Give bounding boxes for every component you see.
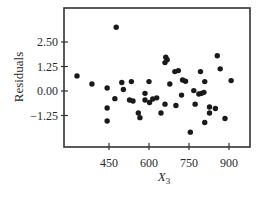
data-point — [104, 105, 109, 110]
data-point — [158, 110, 163, 115]
data-point — [74, 73, 79, 78]
x-axis-label: X3 — [157, 169, 171, 186]
data-point — [104, 118, 109, 123]
y-tick-label: 0.00 — [37, 84, 58, 98]
data-point — [142, 97, 147, 102]
data-point — [222, 116, 227, 121]
data-point — [179, 92, 184, 97]
data-point — [167, 81, 172, 86]
y-tick-label: 1.25 — [37, 60, 58, 74]
plot-frame — [64, 8, 250, 147]
data-point — [164, 57, 169, 62]
x-tick-label: 600 — [140, 156, 158, 170]
x-axis-label-subscript: 3 — [166, 176, 171, 186]
y-axis: 2.501.250.00−1.25 — [30, 35, 68, 123]
data-point — [192, 101, 197, 106]
data-point — [202, 120, 207, 125]
data-point — [130, 98, 135, 103]
data-point — [176, 68, 181, 73]
y-tick-label: 2.50 — [37, 35, 58, 49]
y-tick-label: −1.25 — [30, 109, 58, 123]
data-point — [146, 79, 151, 84]
plot-border — [64, 8, 250, 147]
data-point — [104, 85, 109, 90]
x-tick-label: 450 — [100, 156, 118, 170]
data-point — [136, 110, 141, 115]
data-point — [201, 90, 206, 95]
data-point — [162, 101, 167, 106]
data-point — [215, 53, 220, 58]
data-point — [154, 95, 159, 100]
data-point — [114, 25, 119, 30]
data-point — [198, 69, 203, 74]
data-point — [188, 129, 193, 134]
data-point — [191, 88, 196, 93]
data-point — [121, 87, 126, 92]
x-tick-label: 750 — [180, 156, 198, 170]
data-point — [213, 106, 218, 111]
data-points — [74, 25, 234, 135]
data-point — [202, 79, 207, 84]
data-point — [173, 103, 178, 108]
data-point — [89, 81, 94, 86]
y-axis-label: Residuals — [11, 52, 26, 103]
data-point — [137, 115, 142, 120]
data-point — [228, 78, 233, 83]
x-tick-label: 900 — [220, 156, 238, 170]
data-point — [142, 91, 147, 96]
data-point — [207, 104, 212, 109]
data-point — [119, 80, 124, 85]
data-point — [207, 110, 212, 115]
data-point — [183, 79, 188, 84]
data-point — [112, 96, 117, 101]
data-point — [218, 66, 223, 71]
data-point — [129, 79, 134, 84]
scatter-chart: 2.501.250.00−1.25 450600750900 Residuals… — [0, 0, 263, 197]
